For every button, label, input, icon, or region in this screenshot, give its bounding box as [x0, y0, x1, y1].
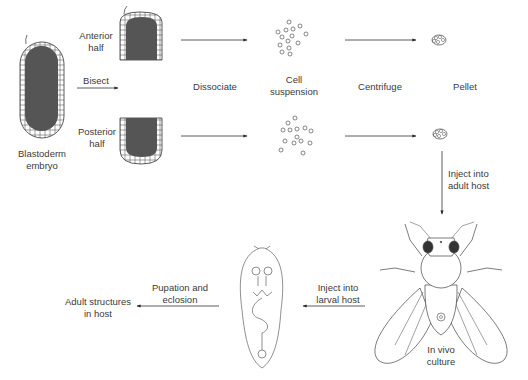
dissociate-label: Dissociate	[185, 81, 245, 93]
anterior-half-label: Anterior half	[72, 30, 120, 54]
cell-suspension-line2: suspension	[264, 86, 324, 98]
in-vivo-line2: culture	[418, 356, 464, 368]
pupation-label: Pupation and eclosion	[148, 282, 212, 306]
pellet-top-icon	[432, 35, 446, 45]
anterior-line1: Anterior	[72, 30, 120, 42]
inject-larval-line1: Inject into	[310, 282, 366, 294]
inject-adult-line1: Inject into	[448, 168, 504, 180]
blastoderm-embryo-label: Blastoderm embryo	[12, 148, 72, 172]
cell-suspension-label: Cell suspension	[264, 74, 324, 98]
adult-structures-line1: Adult structures	[60, 296, 136, 308]
inject-larval-line2: larval host	[310, 294, 366, 306]
cell-suspension-top-icon	[276, 20, 308, 56]
in-vivo-culture-label: In vivo culture	[418, 344, 464, 368]
blastoderm-embryo-icon	[20, 35, 64, 138]
adult-fly-icon	[375, 222, 507, 363]
blastoderm-line2: embryo	[12, 160, 72, 172]
pupation-line1: Pupation and	[148, 282, 212, 294]
cell-suspension-bottom-icon	[279, 116, 313, 155]
pupation-line2: eclosion	[148, 294, 212, 306]
inject-larval-label: Inject into larval host	[310, 282, 366, 306]
centrifuge-label: Centrifuge	[350, 81, 410, 93]
in-vivo-line1: In vivo	[418, 344, 464, 356]
cell-suspension-line1: Cell	[264, 74, 324, 86]
adult-structures-label: Adult structures in host	[60, 296, 136, 320]
inject-adult-line2: adult host	[448, 180, 504, 192]
pellet-bottom-icon	[433, 129, 447, 139]
posterior-half-icon	[120, 118, 162, 164]
posterior-line2: half	[72, 138, 122, 150]
adult-structures-line2: in host	[60, 308, 136, 320]
bisect-label: Bisect	[78, 75, 114, 87]
blastoderm-line1: Blastoderm	[12, 148, 72, 160]
posterior-half-label: Posterior half	[72, 126, 122, 150]
anterior-half-icon	[120, 6, 162, 60]
pellet-label: Pellet	[440, 81, 490, 93]
posterior-line1: Posterior	[72, 126, 122, 138]
anterior-line2: half	[72, 42, 120, 54]
larval-host-icon	[240, 246, 282, 368]
inject-adult-label: Inject into adult host	[448, 168, 504, 192]
